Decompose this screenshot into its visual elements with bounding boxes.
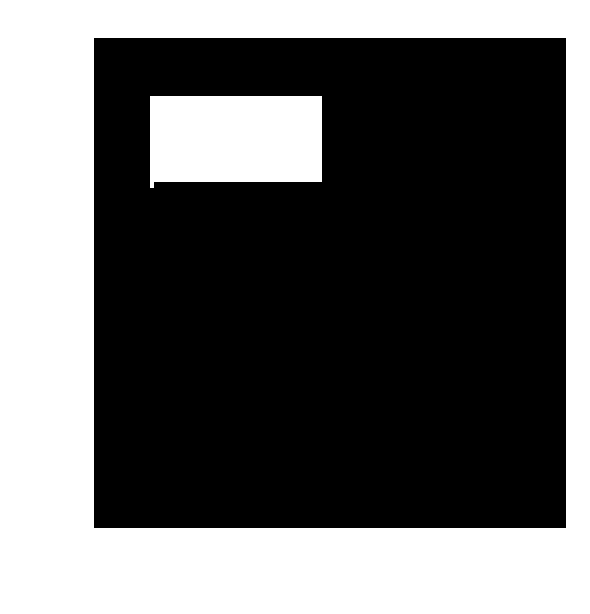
chart-legend	[150, 96, 330, 190]
legend-right-border	[322, 96, 330, 188]
legend-bottom-border	[154, 182, 330, 190]
fat-free-body-mass-line-chart	[0, 0, 590, 614]
chart-figure	[0, 0, 590, 614]
legend-background	[150, 96, 328, 188]
